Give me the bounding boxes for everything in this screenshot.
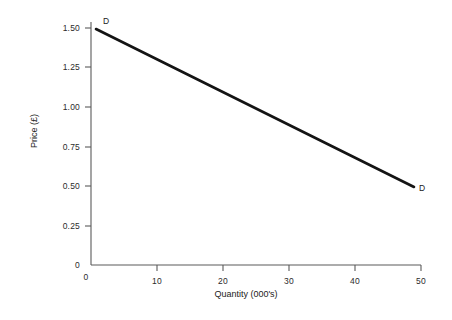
x-axis-title: Quantity (000's): [214, 289, 277, 299]
x-tick-label-40: 40: [350, 276, 360, 286]
chart-canvas: [0, 0, 452, 320]
x-tick-label-10: 10: [152, 276, 162, 286]
y-tick-label-0-50: 0.50: [52, 181, 80, 191]
demand-curve-label-end: D: [419, 183, 425, 193]
x-tick-label-50: 50: [416, 276, 426, 286]
y-tick-label-0: 0: [52, 260, 80, 270]
y-tick-label-0-75: 0.75: [52, 142, 80, 152]
x-tick-label-20: 20: [218, 276, 228, 286]
y-tick-label-0-25: 0.25: [52, 221, 80, 231]
x-tick-label-0: 0: [84, 272, 89, 282]
chart-background: [0, 0, 452, 320]
y-tick-label-1-25: 1.25: [52, 62, 80, 72]
demand-curve-label-start: D: [103, 16, 109, 26]
x-tick-label-30: 30: [284, 276, 294, 286]
y-axis-title: Price (£): [29, 114, 39, 148]
demand-curve-chart: 1.50 1.25 1.00 0.75 0.50 0.25 0 0 10 20 …: [0, 0, 452, 320]
y-tick-label-1-50: 1.50: [52, 23, 80, 33]
y-tick-label-1-00: 1.00: [52, 102, 80, 112]
